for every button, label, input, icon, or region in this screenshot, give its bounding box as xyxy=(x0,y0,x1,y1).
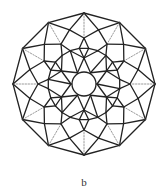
center-circle xyxy=(72,72,96,96)
hidden-edges xyxy=(13,13,155,155)
figure-label: b xyxy=(0,176,168,188)
polyhedron-wireframe-diagram xyxy=(0,0,168,168)
